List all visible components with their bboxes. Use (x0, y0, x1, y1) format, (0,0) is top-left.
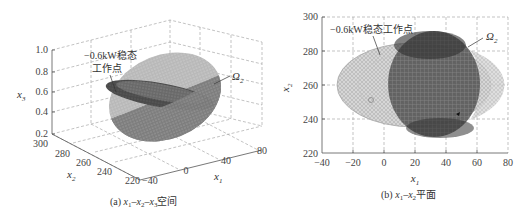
annotation-operating-point-line2: 工作点 (92, 63, 122, 74)
x-tick-label: −40 (314, 157, 330, 168)
y-axis-label: x2 (279, 83, 294, 93)
x-tick-label: 80 (257, 145, 267, 156)
z-tick-label: 1.0 (36, 44, 49, 55)
y-tick-label: 280 (55, 148, 70, 159)
z-tick-label: 0.8 (36, 66, 49, 77)
x-tick-label: 40 (441, 157, 451, 168)
y-tick-label: 260 (76, 157, 91, 168)
annotation-omega2: Ω2 (486, 30, 498, 45)
y-tick-label: 220 (125, 175, 140, 186)
caption-a: (a) x1–x2–x3空间 (110, 195, 177, 209)
x-tick-label: 60 (472, 157, 482, 168)
figure: 1.0 0.8 0.6 0.4 0.2 300 280 260 240 220 … (0, 0, 522, 213)
annotation-operating-point: −0.6kW稳态工作点 (330, 23, 413, 35)
caption-b: (b) x1–x2平面 (381, 189, 436, 202)
x-tick-label: −20 (345, 157, 361, 168)
x-axis-label: x1 (410, 172, 419, 187)
z-tick-label: 0.6 (36, 86, 49, 97)
annotation-omega2: Ω2 (232, 70, 244, 85)
y-tick-label: 240 (97, 166, 112, 177)
panel-b-2d-plot: 300 280 260 240 220 −40 −20 0 20 40 60 8… (279, 11, 513, 202)
x-axis-label: x1 (213, 170, 222, 185)
y-tick-label: 300 (303, 11, 318, 22)
z-tick-label: 0.4 (36, 106, 49, 117)
annotation-leader-line (468, 38, 483, 47)
x-tick-label: 20 (410, 157, 420, 168)
x-tick-label: −40 (142, 175, 158, 186)
x-tick-label: 0 (382, 157, 387, 168)
y-tick-label: 240 (303, 114, 318, 125)
x-tick-label: 0 (184, 165, 189, 176)
y-tick-label: 260 (303, 80, 318, 91)
annotation-operating-point-line1: −0.6kW稳态 (84, 49, 137, 61)
x-tick-label: 80 (503, 157, 513, 168)
y-tick-label: 280 (303, 46, 318, 57)
x-tick-label: 40 (221, 155, 231, 166)
panel-b-disk-shadow-top (394, 31, 466, 59)
panel-a-3d-plot: 1.0 0.8 0.6 0.4 0.2 300 280 260 240 220 … (16, 20, 267, 209)
y-tick-label: 300 (33, 138, 48, 149)
panel-b-disk-shadow-bottom (406, 118, 474, 138)
y-axis-label: x2 (66, 168, 76, 183)
z-axis-label: x3 (16, 88, 26, 103)
